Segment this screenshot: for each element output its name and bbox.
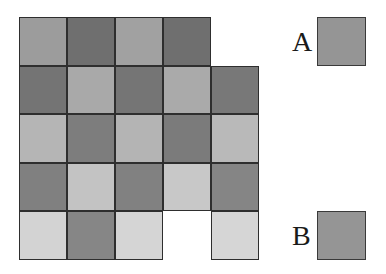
grid-tile <box>211 211 259 260</box>
grid-tile <box>115 211 163 260</box>
grid-tile <box>67 66 115 115</box>
grid-tile <box>67 17 115 66</box>
grid-tile <box>211 114 259 163</box>
grid-tile <box>19 211 67 260</box>
grid-tile <box>163 66 211 115</box>
grid-tile <box>115 66 163 115</box>
grid-tile <box>19 163 67 212</box>
grid-tile <box>115 17 163 66</box>
grid-tile <box>163 17 211 66</box>
grid-tile <box>67 114 115 163</box>
grid-tile <box>67 211 115 260</box>
grid-tile <box>19 114 67 163</box>
checker-grid <box>19 17 260 260</box>
reference-patch-a <box>317 17 366 66</box>
grid-tile <box>211 163 259 212</box>
label-b: B <box>292 222 311 250</box>
grid-tile <box>19 66 67 115</box>
grid-tile <box>211 66 259 115</box>
label-a: A <box>292 28 312 56</box>
grid-tile <box>115 163 163 212</box>
grid-tile <box>115 114 163 163</box>
grid-tile <box>67 163 115 212</box>
reference-patch-b <box>317 211 366 260</box>
grid-tile <box>163 114 211 163</box>
grid-tile <box>163 163 211 212</box>
grid-tile <box>19 17 67 66</box>
